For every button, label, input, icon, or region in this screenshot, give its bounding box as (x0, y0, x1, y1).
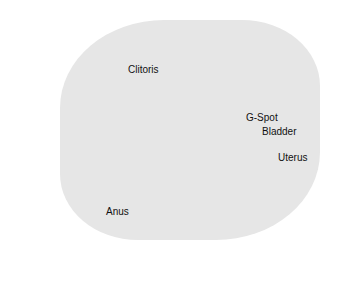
label-uterus: Uterus (278, 152, 307, 163)
label-anus: Anus (106, 206, 129, 217)
label-clitoris: Clitoris (128, 64, 159, 75)
label-bladder: Bladder (262, 126, 296, 137)
label-g-spot: G-Spot (246, 112, 278, 123)
